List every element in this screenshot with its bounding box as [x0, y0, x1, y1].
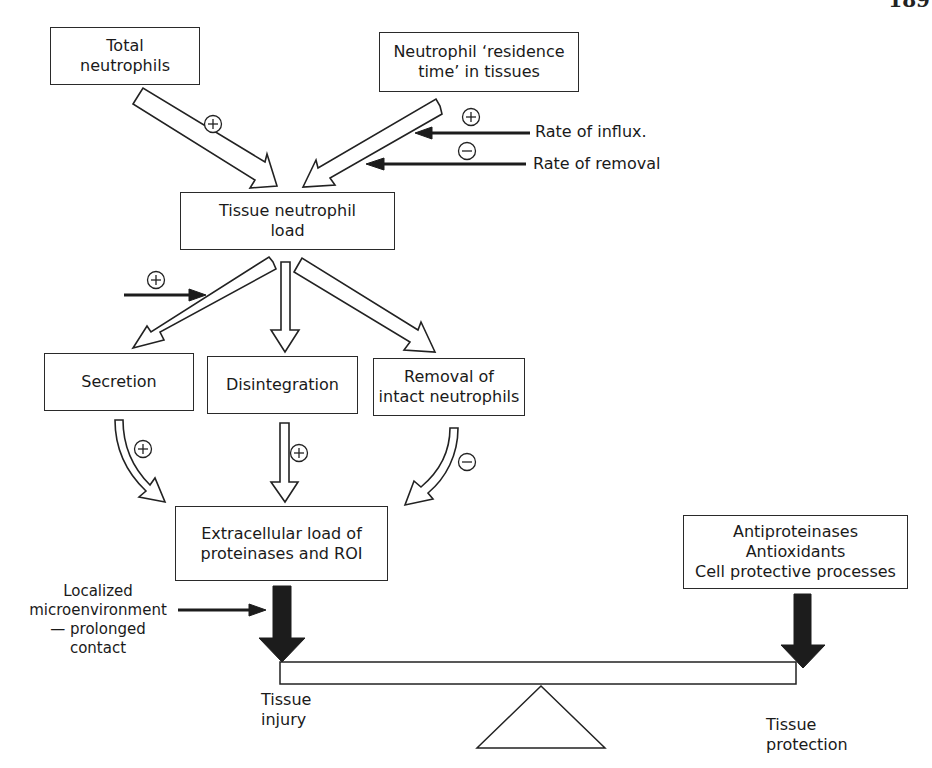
- label-rate-of-influx: Rate of influx.: [535, 122, 647, 142]
- box-text: Secretion: [81, 372, 157, 392]
- label-tissue-protection: Tissue protection: [766, 715, 848, 755]
- box-text: Tissue neutrophil: [219, 201, 356, 221]
- label-line: microenvironment: [18, 601, 178, 620]
- diagram-canvas: 189 .hollow { fill: #fff; stroke: #222; …: [0, 0, 932, 768]
- box-secretion: Secretion: [44, 353, 194, 411]
- box-tissue-neutrophil-load: Tissue neutrophil load: [180, 192, 395, 250]
- box-text: time’ in tissues: [418, 62, 540, 82]
- label-tissue-injury: Tissue injury: [261, 690, 311, 730]
- arrow-injury-force-icon: [259, 586, 305, 662]
- arrow-residence-to-load-icon: [303, 99, 442, 187]
- arrow-microenvironment-icon: [178, 604, 266, 616]
- box-residence-time: Neutrophil ‘residence time’ in tissues: [379, 32, 579, 92]
- minus-sign-icon: [459, 454, 476, 471]
- label-line: Tissue: [766, 715, 848, 735]
- plus-sign-icon: [135, 441, 152, 458]
- arrow-secretion-to-extracellular-icon: [115, 420, 165, 502]
- minus-sign-icon: [459, 143, 476, 160]
- box-disintegration: Disintegration: [207, 356, 358, 414]
- plus-sign-icon: [291, 445, 308, 462]
- box-text: Neutrophil ‘residence: [393, 42, 564, 62]
- box-total-neutrophils: Total neutrophils: [50, 27, 200, 85]
- box-text: Antiproteinases: [733, 522, 858, 542]
- plus-sign-icon: [148, 272, 165, 289]
- box-text: Disintegration: [226, 375, 339, 395]
- plus-sign-icon: [205, 116, 222, 133]
- box-text: Total: [106, 36, 143, 56]
- arrow-total-to-load-icon: [133, 88, 277, 188]
- arrow-stimulus-to-secretion-icon: [124, 289, 206, 301]
- box-text: load: [270, 221, 304, 241]
- label-line: contact: [18, 639, 178, 658]
- box-removal-intact-neutrophils: Removal of intact neutrophils: [373, 358, 525, 416]
- plus-sign-icon: [463, 109, 480, 126]
- label-line: Localized: [18, 582, 178, 601]
- arrow-disintegration-to-extracellular-icon: [271, 423, 298, 502]
- label-line: Tissue: [261, 690, 311, 710]
- label-line: protection: [766, 735, 848, 755]
- box-protective-processes: Antiproteinases Antioxidants Cell protec…: [683, 515, 908, 589]
- label-rate-of-removal: Rate of removal: [533, 154, 660, 174]
- arrow-removal-to-extracellular-icon: [405, 428, 458, 505]
- box-text: Cell protective processes: [695, 562, 896, 582]
- box-text: neutrophils: [80, 56, 170, 76]
- label-microenvironment: Localized microenvironment — prolonged c…: [18, 582, 178, 658]
- box-text: Antioxidants: [746, 542, 846, 562]
- arrow-load-to-disintegration-icon: [271, 262, 299, 352]
- arrow-load-to-removal-icon: [294, 258, 435, 352]
- label-line: — prolonged: [18, 620, 178, 639]
- box-extracellular-load: Extracellular load of proteinases and RO…: [175, 506, 388, 581]
- arrow-load-to-secretion-icon: [133, 257, 276, 348]
- label-line: injury: [261, 710, 311, 730]
- balance-beam-icon: [280, 662, 796, 684]
- arrow-protection-force-icon: [781, 594, 825, 668]
- arrow-rate-removal-icon: [366, 158, 526, 170]
- box-text: Extracellular load of: [201, 524, 362, 544]
- box-text: Removal of: [404, 367, 494, 387]
- box-text: intact neutrophils: [379, 387, 520, 407]
- fulcrum-icon: [477, 686, 605, 748]
- arrow-rate-influx-icon: [415, 127, 530, 139]
- box-text: proteinases and ROI: [201, 544, 363, 564]
